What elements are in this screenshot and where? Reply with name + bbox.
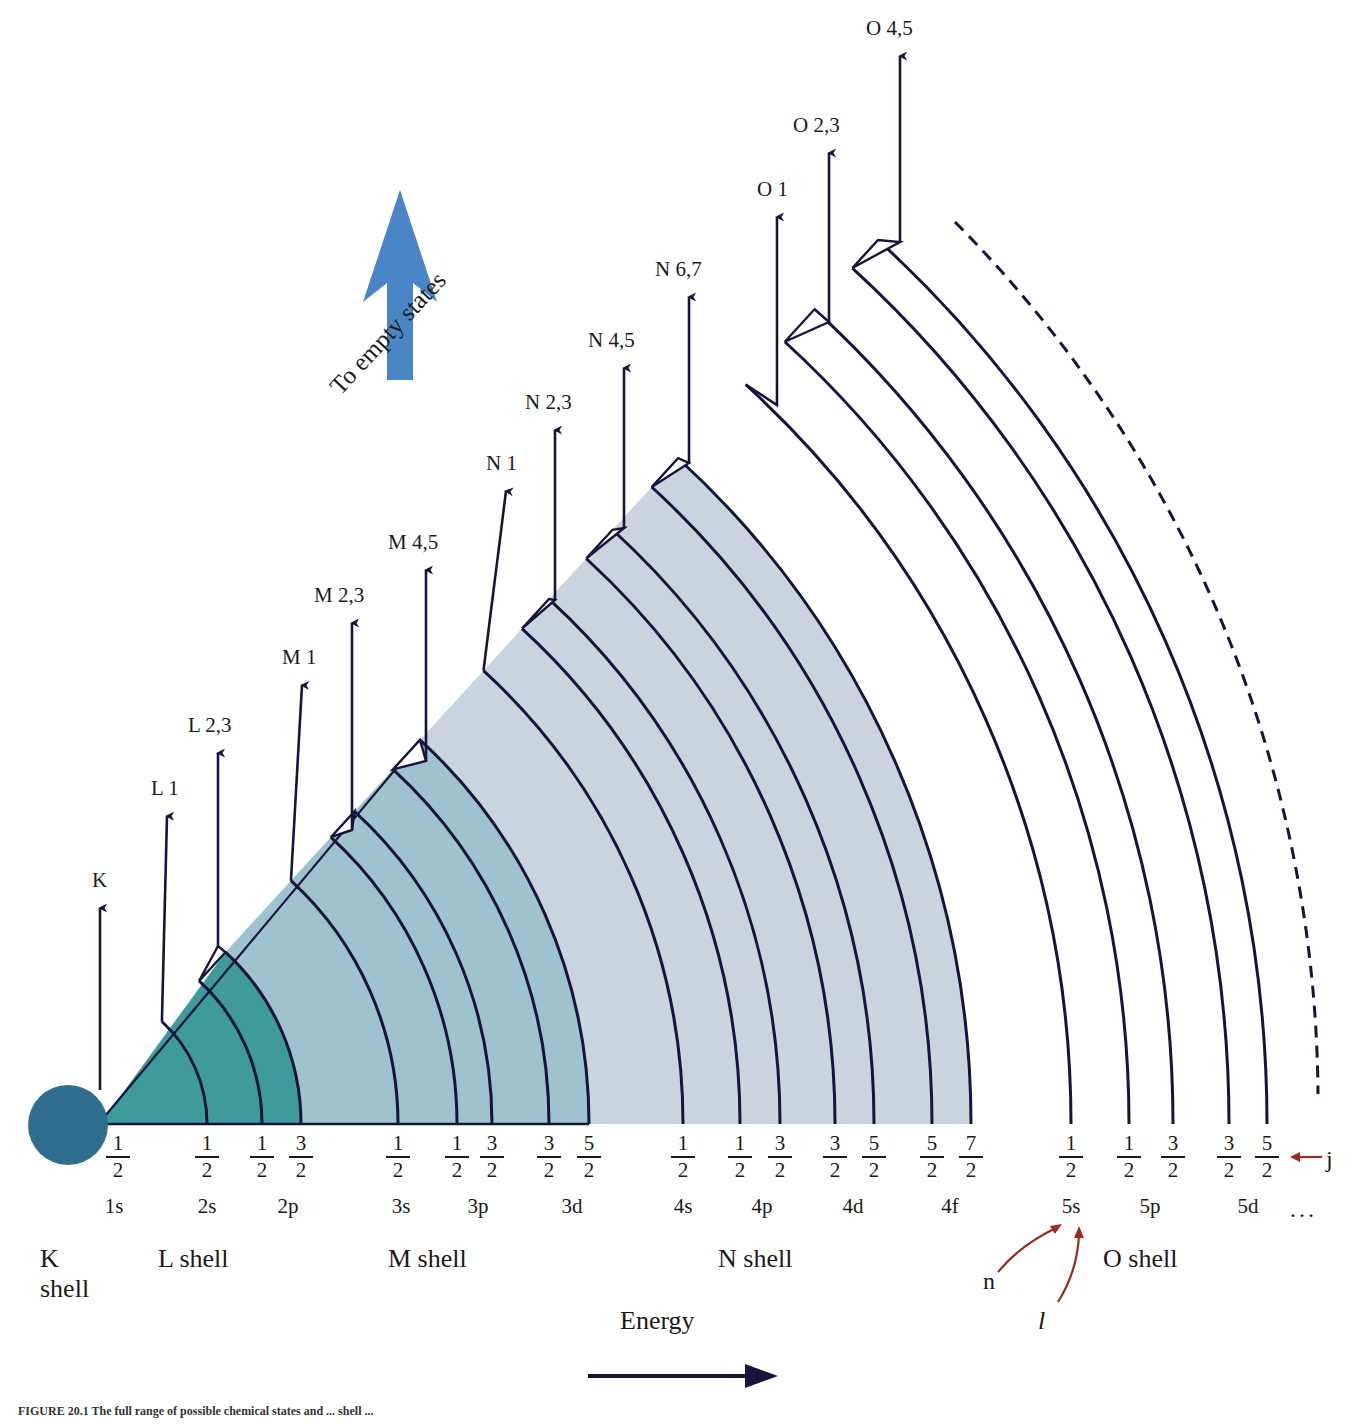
j-value: 32 [1217, 1133, 1241, 1181]
j-numerator: 1 [1059, 1133, 1083, 1158]
j-denominator: 2 [823, 1158, 847, 1181]
j-denominator: 2 [445, 1158, 469, 1181]
j-value: 12 [386, 1133, 410, 1181]
figure-caption: FIGURE 20.1 The full range of possible c… [18, 1404, 373, 1419]
l-pointer-arrow-icon [1058, 1226, 1084, 1302]
energy-arrow-icon [588, 1364, 778, 1388]
j-value: 12 [250, 1133, 274, 1181]
j-denominator: 2 [577, 1158, 601, 1181]
j-value: 32 [480, 1133, 504, 1181]
j-value: 12 [1117, 1133, 1141, 1181]
j-numerator: 7 [959, 1133, 983, 1158]
j-denominator: 2 [386, 1158, 410, 1181]
level-label-n67: N 6,7 [655, 259, 702, 280]
level-label-m45: M 4,5 [388, 532, 438, 553]
level-label-l1: L 1 [151, 778, 179, 799]
subshell-label-5p: 5p [1140, 1196, 1161, 1217]
level-label-n23: N 2,3 [525, 392, 572, 413]
j-numerator: 3 [1161, 1133, 1185, 1158]
level-arrow [291, 685, 302, 881]
j-denominator: 2 [671, 1158, 695, 1181]
j-denominator: 2 [920, 1158, 944, 1181]
j-denominator: 2 [1117, 1158, 1141, 1181]
level-label-n45: N 4,5 [588, 330, 635, 351]
shell-label-o: O shell [1103, 1244, 1177, 1274]
j-numerator: 3 [537, 1133, 561, 1158]
j-value: 52 [1255, 1133, 1279, 1181]
j-numerator: 5 [920, 1133, 944, 1158]
j-denominator: 2 [289, 1158, 313, 1181]
energy-label: Energy [620, 1306, 695, 1336]
j-value: 32 [768, 1133, 792, 1181]
level-label-o1: O 1 [757, 179, 788, 200]
ellipsis: ... [1290, 1196, 1317, 1223]
j-value: 52 [577, 1133, 601, 1181]
j-numerator: 5 [862, 1133, 886, 1158]
j-denominator: 2 [106, 1158, 130, 1181]
l-label: l [1038, 1306, 1045, 1336]
j-denominator: 2 [728, 1158, 752, 1181]
j-value: 32 [1161, 1133, 1185, 1181]
j-numerator: 3 [480, 1133, 504, 1158]
j-value: 32 [289, 1133, 313, 1181]
shell-label-k: Kshell [40, 1244, 89, 1304]
j-value: 12 [445, 1133, 469, 1181]
subshell-label-4s: 4s [674, 1196, 693, 1217]
j-value: 32 [537, 1133, 561, 1181]
shell-label-n: N shell [718, 1244, 792, 1274]
level-arrow [162, 816, 167, 1022]
n-label: n [983, 1268, 995, 1295]
j-numerator: 5 [577, 1133, 601, 1158]
j-numerator: 3 [823, 1133, 847, 1158]
j-value: 12 [106, 1133, 130, 1181]
j-numerator: 1 [195, 1133, 219, 1158]
level-arrow [746, 217, 777, 405]
j-numerator: 1 [106, 1133, 130, 1158]
subshell-label-3p: 3p [468, 1196, 489, 1217]
level-label-l23: L 2,3 [188, 715, 232, 736]
j-denominator: 2 [862, 1158, 886, 1181]
j-numerator: 5 [1255, 1133, 1279, 1158]
j-numerator: 1 [445, 1133, 469, 1158]
level-label-o45: O 4,5 [866, 18, 913, 39]
level-label-k: K [92, 870, 107, 891]
subshell-label-5d: 5d [1238, 1196, 1259, 1217]
n-pointer-arrow-icon [998, 1224, 1062, 1272]
subshell-label-1s: 1s [105, 1196, 124, 1217]
split-junction [785, 309, 829, 341]
j-denominator: 2 [1255, 1158, 1279, 1181]
j-numerator: 1 [250, 1133, 274, 1158]
j-denominator: 2 [537, 1158, 561, 1181]
j-numerator: 1 [1117, 1133, 1141, 1158]
shell-label-l: L shell [158, 1244, 229, 1274]
subshell-label-5s: 5s [1062, 1196, 1081, 1217]
level-label-o23: O 2,3 [793, 115, 840, 136]
j-value: 52 [862, 1133, 886, 1181]
j-denominator: 2 [1161, 1158, 1185, 1181]
level-label-m1: M 1 [282, 647, 316, 668]
subshell-label-4p: 4p [752, 1196, 773, 1217]
j-numerator: 1 [728, 1133, 752, 1158]
j-denominator: 2 [1059, 1158, 1083, 1181]
dashed-continuation-arc [955, 222, 1318, 1094]
j-value: 52 [920, 1133, 944, 1181]
j-denominator: 2 [480, 1158, 504, 1181]
j-value: 32 [823, 1133, 847, 1181]
subshell-label-4d: 4d [843, 1196, 864, 1217]
shell-label-k-line1: K [40, 1244, 59, 1273]
j-denominator: 2 [959, 1158, 983, 1181]
j-value: 12 [1059, 1133, 1083, 1181]
level-arrow [483, 491, 506, 671]
j-value: 12 [728, 1133, 752, 1181]
subshell-label-2s: 2s [198, 1196, 217, 1217]
j-denominator: 2 [768, 1158, 792, 1181]
j-numerator: 1 [671, 1133, 695, 1158]
j-denominator: 2 [1217, 1158, 1241, 1181]
j-numerator: 3 [1217, 1133, 1241, 1158]
level-label-m23: M 2,3 [314, 585, 364, 606]
shell-fills [100, 458, 971, 1124]
shell-label-m: M shell [388, 1244, 467, 1274]
j-numerator: 1 [386, 1133, 410, 1158]
k-shell-circle [28, 1085, 108, 1165]
level-label-n1: N 1 [486, 453, 517, 474]
